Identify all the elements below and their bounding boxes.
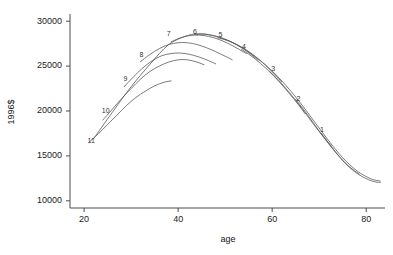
curve-label-2: 2 (297, 95, 301, 102)
curve-10 (103, 60, 204, 120)
x-axis-title: age (220, 234, 235, 244)
x-axis: 20406080 (70, 208, 385, 224)
y-tick-label: 30000 (37, 16, 62, 26)
y-tick-label: 15000 (37, 150, 62, 160)
curve-label-3: 3 (271, 65, 275, 72)
x-tick-label: 40 (173, 214, 183, 224)
x-tick-label: 80 (361, 214, 371, 224)
curve-label-7: 7 (167, 30, 171, 37)
curve-label-6: 6 (193, 28, 197, 35)
curve-label-4: 4 (242, 43, 246, 50)
x-tick-label: 20 (79, 214, 89, 224)
curve-label-5: 5 (218, 31, 222, 38)
curve-label-group: 1110987654321 (88, 28, 325, 144)
chart-canvas: 1000015000200002500030000 20406080 11109… (0, 0, 393, 255)
curve-envelope (94, 34, 381, 181)
curve-4 (242, 49, 305, 113)
x-tick-label: 60 (267, 214, 277, 224)
age-earnings-chart: 1000015000200002500030000 20406080 11109… (0, 0, 393, 255)
y-tick-label: 20000 (37, 105, 62, 115)
curve-label-9: 9 (124, 75, 128, 82)
curve-5 (218, 38, 281, 82)
curve-label-1: 1 (320, 126, 324, 133)
curve-1 (322, 133, 381, 182)
curve-label-10: 10 (102, 107, 110, 114)
y-tick-label: 25000 (37, 60, 62, 70)
y-axis-title: 1996$ (6, 99, 16, 124)
y-axis: 1000015000200002500030000 (37, 14, 70, 208)
curve-label-8: 8 (140, 51, 144, 58)
curve-series-group (89, 34, 380, 183)
curve-label-11: 11 (88, 137, 95, 144)
y-tick-label: 10000 (37, 195, 62, 205)
curve-2 (296, 99, 359, 174)
